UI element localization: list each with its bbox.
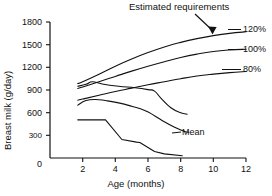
- annotation-estimated-requirements: Estimated requirements: [129, 2, 229, 12]
- y-tick-label-0: 0: [8, 160, 42, 169]
- series-label-80-percent: 80%: [243, 65, 261, 74]
- x-axis-title: Age (months): [107, 178, 164, 189]
- series-label-mean: Mean: [182, 128, 205, 137]
- x-tick-label-8: 8: [178, 165, 183, 174]
- y-tick-label-1500: 1500: [8, 40, 42, 49]
- series-line-lower-intake: [78, 120, 183, 156]
- series-line-80-percent: [78, 71, 246, 100]
- x-axis-ticks: [83, 158, 246, 162]
- x-tick-label-12: 12: [241, 165, 251, 174]
- y-tick-label-900: 900: [8, 86, 42, 95]
- estimated-requirements-arrow: [195, 14, 217, 35]
- x-tick-label-4: 4: [113, 165, 118, 174]
- y-tick-label-1800: 1800: [8, 18, 42, 27]
- series-label-leaders: [172, 30, 241, 134]
- series-line-120-percent: [78, 32, 246, 84]
- series-label-120-percent: 120%: [243, 25, 266, 34]
- y-tick-label-1200: 1200: [8, 63, 42, 72]
- x-tick-label-10: 10: [208, 165, 218, 174]
- series-label-100-percent: 100%: [243, 45, 266, 54]
- series-lines: [78, 32, 246, 156]
- series-line-upper-intake: [78, 82, 187, 114]
- series-line-mean: [78, 99, 189, 132]
- x-tick-label-2: 2: [80, 165, 85, 174]
- x-tick-label-6: 6: [145, 165, 150, 174]
- leader-mean: [172, 132, 181, 133]
- y-tick-label-600: 600: [8, 108, 42, 117]
- chart-figure: 1800 1500 1200 900 600 300 0 2 4 6 8 10 …: [0, 0, 272, 196]
- y-axis-title: Breast milk (g/day): [2, 71, 13, 150]
- y-tick-label-300: 300: [8, 131, 42, 140]
